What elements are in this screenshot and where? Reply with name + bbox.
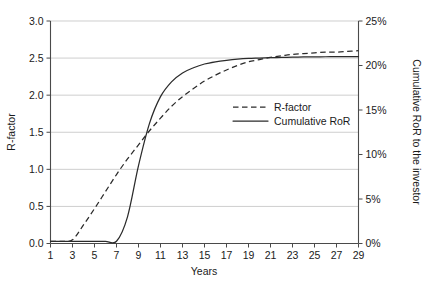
x-tick-label: 13 [177,249,189,261]
x-axis-title: Years [191,265,217,277]
y2-axis-title: Cumulative RoR to the investor [411,59,423,205]
y-tick-label: 1.0 [29,163,44,175]
x-tick-label: 19 [243,249,255,261]
y-tick-label: 2.0 [29,89,44,101]
y-tick-label: 0.0 [29,237,44,249]
x-tick-label: 23 [287,249,299,261]
x-tick-label: 29 [353,249,365,261]
line-chart: 0.00.51.01.52.02.53.0 0%5%10%15%20%25% 1… [0,0,429,291]
x-tick-label: 15 [199,249,211,261]
y-tick-label: 0.5 [29,200,44,212]
y2-tick-label: 20% [366,59,387,71]
y-tick-label: 2.5 [29,52,44,64]
x-tick-label: 21 [265,249,277,261]
x-tick-label: 17 [221,249,233,261]
y-axis-title: R-factor [5,113,17,151]
x-tick-label: 11 [155,249,166,261]
y2-tick-label: 25% [366,15,387,27]
y-tick-label: 1.5 [29,126,44,138]
chart-figure: 0.00.51.01.52.02.53.0 0%5%10%15%20%25% 1… [0,0,429,291]
x-tick-label: 7 [114,249,120,261]
x-tick-label: 3 [70,249,76,261]
legend-label-r-factor: R-factor [274,101,312,113]
legend-label-cumulative-ror: Cumulative RoR [274,115,351,127]
y2-tick-label: 0% [366,237,381,249]
y2-tick-label: 5% [366,193,381,205]
x-tick-label: 5 [92,249,98,261]
y2-tick-label: 10% [366,148,387,160]
x-tick-label: 9 [136,249,142,261]
x-tick-label: 1 [48,249,54,261]
x-tick-label: 25 [309,249,321,261]
y-tick-label: 3.0 [29,15,44,27]
y2-tick-label: 15% [366,104,387,116]
x-tick-label: 27 [331,249,343,261]
